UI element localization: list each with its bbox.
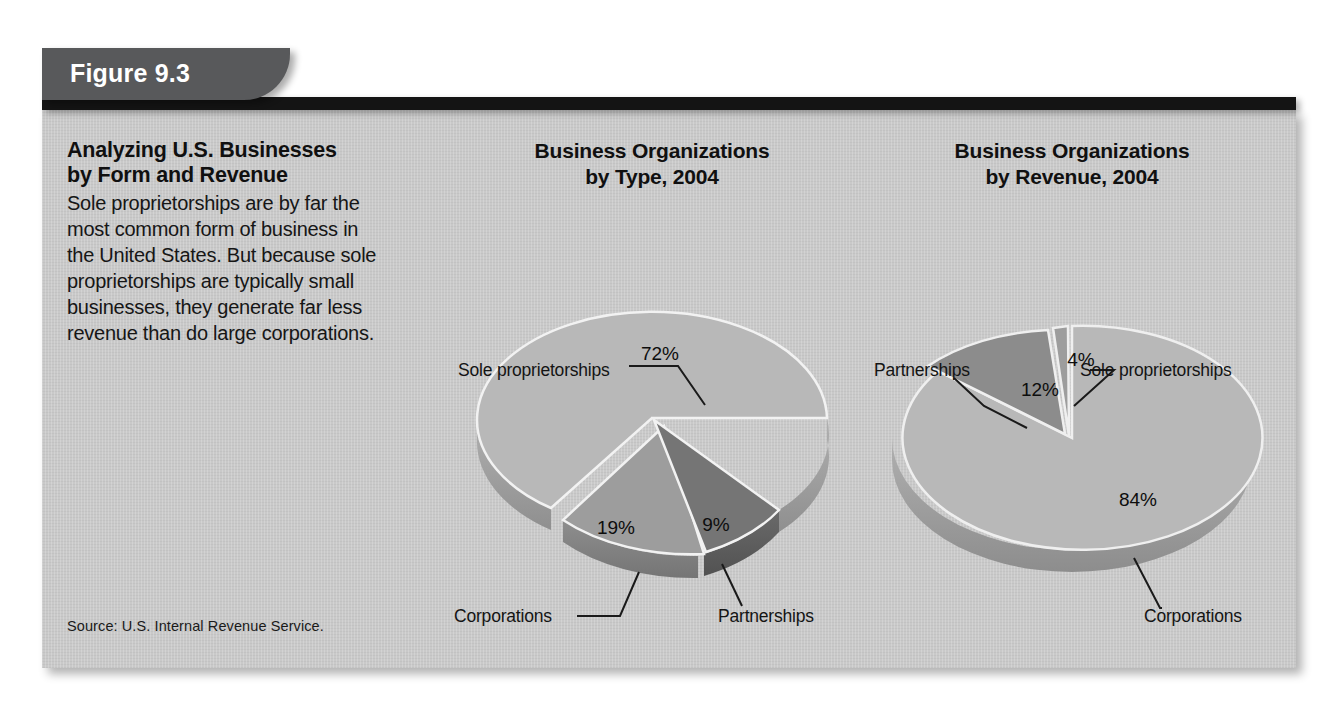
- chart-1-leader-partnerships: [722, 564, 742, 606]
- chart-1-callout-sole-proprietorships: Sole proprietorships: [458, 360, 610, 381]
- chart-2-callout-corporations: Corporations: [1144, 606, 1242, 627]
- caption-body-text: Sole proprietorships are by far the most…: [67, 190, 377, 346]
- chart-2-pie-stage: 84% 12% 4%: [862, 138, 1282, 648]
- pie-chart-by-type: Business Organizations by Type, 2004: [442, 138, 862, 648]
- chart-2-svg: 84% 12% 4%: [862, 138, 1282, 648]
- figure-number-label: Figure 9.3: [70, 59, 190, 88]
- chart-2-callout-sole-proprietorships: Sole proprietorships: [1080, 360, 1232, 381]
- figure-tab: Figure 9.3: [42, 48, 290, 100]
- chart-1-sole-side-right: [779, 418, 829, 532]
- chart-2-pct-corporations: 84%: [1119, 489, 1157, 510]
- chart-1-callout-partnerships: Partnerships: [718, 606, 814, 627]
- source-note: Source: U.S. Internal Revenue Service.: [67, 618, 324, 634]
- pie-chart-by-revenue: Business Organizations by Revenue, 2004: [862, 138, 1282, 648]
- chart-1-pct-partnerships: 9%: [702, 514, 730, 535]
- chart-1-pct-sole: 72%: [641, 343, 679, 364]
- chart-2-pct-partnerships: 12%: [1021, 379, 1059, 400]
- chart-2-leader-corporations: [1134, 558, 1162, 608]
- chart-1-pct-corporations: 19%: [597, 517, 635, 538]
- chart-1-svg: 72% 19% 9%: [442, 138, 862, 648]
- caption-column: Analyzing U.S. Businesses by Form and Re…: [67, 138, 377, 346]
- chart-1-pie-stage: 72% 19% 9%: [442, 138, 862, 648]
- caption-title: Analyzing U.S. Businesses by Form and Re…: [67, 138, 377, 187]
- chart-1-callout-corporations: Corporations: [454, 606, 552, 627]
- figure-container: Figure 9.3 Analyzing U.S. Businesses by …: [0, 0, 1337, 718]
- caption-title-line-2: by Form and Revenue: [67, 163, 377, 188]
- figure-panel: Analyzing U.S. Businesses by Form and Re…: [42, 110, 1296, 668]
- chart-2-callout-partnerships: Partnerships: [874, 360, 970, 381]
- caption-title-line-1: Analyzing U.S. Businesses: [67, 138, 377, 163]
- chart-1-leader-corporations: [577, 572, 639, 616]
